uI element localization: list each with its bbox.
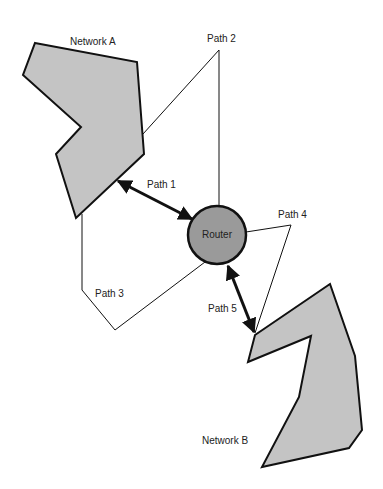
path-5-label: Path 5 bbox=[208, 303, 237, 314]
path-5-arrow bbox=[228, 266, 254, 332]
network-a-shape bbox=[23, 43, 144, 218]
path-3-label: Path 3 bbox=[95, 288, 124, 299]
network-diagram bbox=[0, 0, 383, 489]
network-b-shape bbox=[248, 284, 362, 467]
network-b-label: Network B bbox=[202, 435, 248, 446]
router-label: Router bbox=[187, 229, 247, 240]
network-a-label: Network A bbox=[70, 36, 116, 47]
path-1-label: Path 1 bbox=[147, 179, 176, 190]
path-2-label: Path 2 bbox=[207, 33, 236, 44]
path-4-label: Path 4 bbox=[278, 209, 307, 220]
